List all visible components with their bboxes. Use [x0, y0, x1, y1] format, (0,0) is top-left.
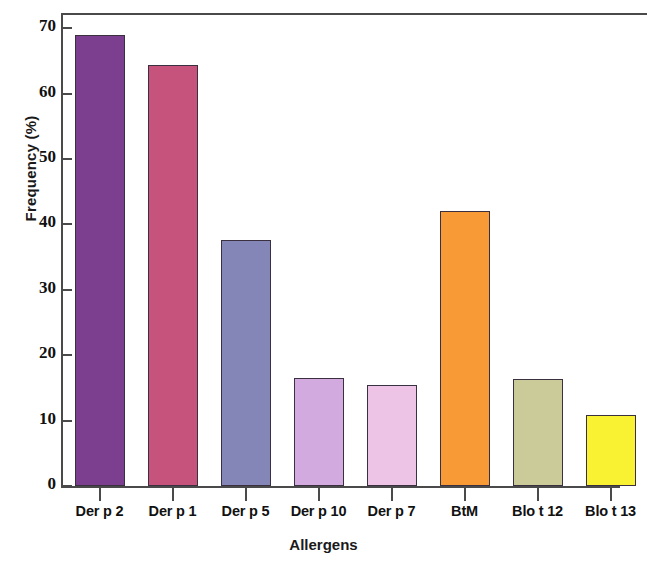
y-tick: 70: [0, 27, 72, 29]
bar-btm: [440, 211, 490, 486]
x-tick-mark: [464, 488, 466, 501]
x-tick-label-der-p-10: Der p 10: [291, 503, 347, 519]
y-axis-title: Frequency (%): [22, 69, 39, 269]
x-tick-mark: [537, 488, 539, 501]
x-tick-label-der-p-1: Der p 1: [149, 503, 197, 519]
x-tick-label-blo-t-13: Blo t 13: [585, 503, 636, 519]
y-tick: 0: [0, 485, 72, 487]
x-tick-label-der-p-5: Der p 5: [222, 503, 270, 519]
x-tick-mark: [391, 488, 393, 501]
bar-der-p-1: [148, 65, 198, 486]
y-tick-label: 20: [39, 343, 56, 363]
x-tick-label-der-p-2: Der p 2: [76, 503, 124, 519]
y-tick-label: 60: [39, 82, 56, 102]
y-tick: 40: [0, 223, 72, 225]
y-tick-label: 10: [39, 409, 56, 429]
y-tick-label: 0: [48, 474, 57, 494]
y-tick: 20: [0, 354, 72, 356]
y-tick-label: 50: [39, 147, 56, 167]
y-tick-label: 40: [39, 212, 56, 232]
y-tick: 10: [0, 420, 72, 422]
y-tick-label: 30: [39, 278, 56, 298]
bar-blo-t-12: [513, 379, 563, 486]
bar-blo-t-13: [586, 415, 636, 486]
bar-der-p-2: [75, 35, 125, 486]
x-tick-mark: [318, 488, 320, 501]
x-axis-title: Allergens: [0, 536, 647, 553]
x-tick-mark: [245, 488, 247, 501]
bar-der-p-7: [367, 385, 417, 486]
x-tick-label-btm: BtM: [451, 503, 478, 519]
y-tick: 50: [0, 158, 72, 160]
x-tick-label-blo-t-12: Blo t 12: [512, 503, 563, 519]
x-tick-label-der-p-7: Der p 7: [368, 503, 416, 519]
y-tick: 60: [0, 93, 72, 95]
x-tick-mark: [610, 488, 612, 501]
y-tick: 30: [0, 289, 72, 291]
y-tick-label: 70: [39, 16, 56, 36]
bar-der-p-5: [221, 240, 271, 486]
plot-area: [63, 15, 647, 486]
bar-chart-figure: Frequency (%) 010203040506070 Der p 2Der…: [0, 0, 647, 565]
x-tick-mark: [172, 488, 174, 501]
bar-der-p-10: [294, 378, 344, 486]
x-tick-mark: [99, 488, 101, 501]
